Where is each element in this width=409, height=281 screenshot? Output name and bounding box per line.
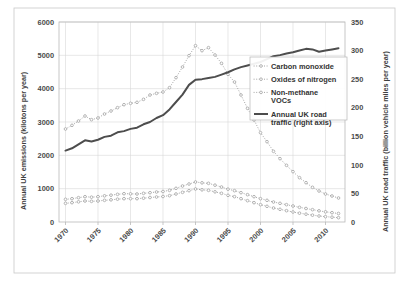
legend-label-0: Carbon monoxide [271,62,334,71]
chart-container: 0100020003000400050006000 05010015020025… [0,0,409,281]
y2-tick-200: 200 [351,103,363,112]
y-tick-0: 0 [50,218,54,227]
y2-tick-150: 150 [351,132,363,141]
y-tick-1000: 1000 [38,184,54,193]
legend-label-3-line2: traffic (right axis) [271,118,332,127]
y-tick-3000: 3000 [38,118,54,127]
legend-label-2-line2: VOCs [271,96,291,105]
legend-label-1: Oxides of nitrogen [271,75,337,84]
y2-axis-title: Annual UK road traffic (billion vehicle … [381,50,390,232]
y-tick-5000: 5000 [38,51,54,60]
y2-tick-250: 250 [351,75,363,84]
chart-legend: Carbon monoxideOxides of nitrogenNon-met… [250,57,347,127]
y2-tick-50: 50 [351,189,359,198]
emissions-traffic-line-chart: 0100020003000400050006000 05010015020025… [0,0,409,281]
y2-tick-350: 350 [351,18,363,27]
y2-tick-0: 0 [351,218,355,227]
y2-tick-300: 300 [351,46,363,55]
y2-tick-100: 100 [351,161,363,170]
y-tick-6000: 6000 [38,18,54,27]
y-tick-2000: 2000 [38,151,54,160]
y-axis-title: Annual UK emissions (kilotons per year) [19,71,28,210]
y-tick-4000: 4000 [38,84,54,93]
